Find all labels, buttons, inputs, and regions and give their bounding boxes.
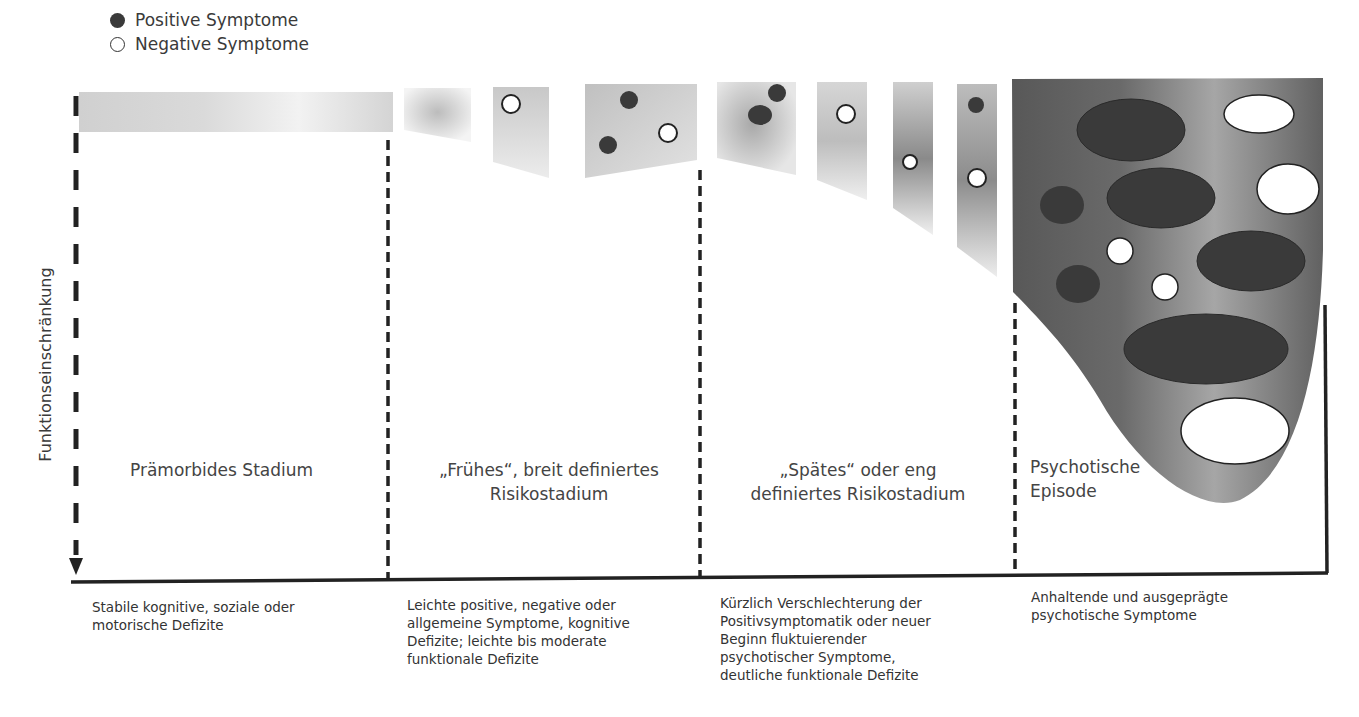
stage-desc-psychotic-episode: Anhaltende und ausgeprägte psychotische … <box>1031 588 1228 624</box>
negative-symptom-marker <box>1152 274 1178 300</box>
desc-line: allgemeine Symptome, kognitive <box>407 614 630 632</box>
stage-title-line: definiertes Risikostadium <box>718 482 998 506</box>
desc-line: Anhaltende und ausgeprägte <box>1031 588 1228 606</box>
negative-symptom-marker <box>502 95 520 113</box>
positive-symptom-marker <box>1077 99 1185 161</box>
positive-symptom-marker <box>1040 186 1084 224</box>
negative-symptom-marker <box>1107 238 1133 264</box>
positive-symptom-marker <box>599 136 617 154</box>
positive-symptom-marker <box>968 97 984 113</box>
positive-symptom-marker <box>1107 168 1215 228</box>
desc-line: psychotische Symptome <box>1031 606 1228 624</box>
negative-symptom-marker <box>659 124 677 142</box>
stage-desc-late-risk: Kürzlich Verschlechterung der Positivsym… <box>720 594 931 684</box>
desc-line: funktionale Defizite <box>407 650 630 668</box>
negative-symptom-marker <box>837 105 855 123</box>
desc-line: Leichte positive, negative oder <box>407 596 630 614</box>
desc-line: Beginn fluktuierender <box>720 630 931 648</box>
stage-title-line: „Spätes“ oder eng <box>718 458 998 482</box>
stage-title-line: Psychotische <box>1030 455 1140 479</box>
early-band-2 <box>493 87 549 178</box>
desc-line: Kürzlich Verschlechterung der <box>720 594 931 612</box>
negative-symptom-marker <box>1224 95 1294 133</box>
stage-title-line: „Frühes“, breit definiertes <box>418 458 680 482</box>
stage-title-text: Prämorbides Stadium <box>130 460 313 480</box>
desc-line: psychotischer Symptome, <box>720 648 931 666</box>
late-band-2 <box>817 82 867 200</box>
early-band-1 <box>404 88 471 142</box>
positive-symptom-marker <box>1197 231 1305 291</box>
stage-title-early-risk: „Frühes“, breit definiertes Risikostadiu… <box>418 458 680 506</box>
positive-symptom-marker <box>748 105 772 125</box>
premorbid-band <box>79 92 393 132</box>
negative-symptom-marker <box>1257 164 1319 214</box>
early-band-3 <box>585 84 697 178</box>
arrow-down-icon <box>69 558 83 575</box>
desc-line: deutliche funktionale Defizite <box>720 666 931 684</box>
stage-title-line: Risikostadium <box>418 482 680 506</box>
positive-symptom-marker <box>620 91 638 109</box>
desc-line: Stabile kognitive, soziale oder <box>92 598 295 616</box>
positive-symptom-marker <box>1056 265 1100 303</box>
right-border <box>1325 305 1327 573</box>
negative-symptom-marker <box>968 169 986 187</box>
negative-symptom-marker <box>1181 398 1289 464</box>
positive-symptom-marker <box>1124 314 1288 384</box>
positive-symptom-marker <box>768 84 786 102</box>
desc-line: Defizite; leichte bis moderate <box>407 632 630 650</box>
stage-title-late-risk: „Spätes“ oder eng definiertes Risikostad… <box>718 458 998 506</box>
negative-symptom-marker <box>903 155 917 169</box>
desc-line: Positivsymptomatik oder neuer <box>720 612 931 630</box>
stage-desc-premorbid: Stabile kognitive, soziale oder motorisc… <box>92 598 295 634</box>
stage-title-line: Episode <box>1030 479 1140 503</box>
y-axis-label: Funktionseinschränkung <box>36 265 55 465</box>
stage-title-premorbid: Prämorbides Stadium <box>130 458 313 482</box>
stage-title-psychotic-episode: Psychotische Episode <box>1030 455 1140 503</box>
stage-desc-early-risk: Leichte positive, negative oder allgemei… <box>407 596 630 668</box>
desc-line: motorische Defizite <box>92 616 295 634</box>
